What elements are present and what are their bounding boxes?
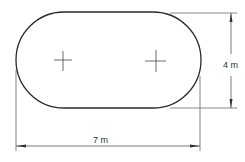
height-dimension-label: 4 m: [223, 60, 238, 70]
right-center-crosshair-icon: [145, 50, 166, 72]
width-dimension-label: 7 m: [93, 135, 108, 145]
stadium-outline: [16, 12, 201, 108]
left-center-crosshair-icon: [54, 51, 72, 71]
extension-lines: [16, 13, 237, 151]
stadium-dimension-diagram: 7 m 4 m: [0, 0, 245, 162]
